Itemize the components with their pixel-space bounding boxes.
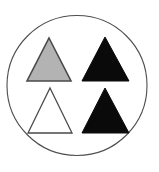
figure-container: [0, 0, 159, 172]
shapes-figure: [0, 0, 159, 172]
circle-outline: [7, 16, 147, 156]
